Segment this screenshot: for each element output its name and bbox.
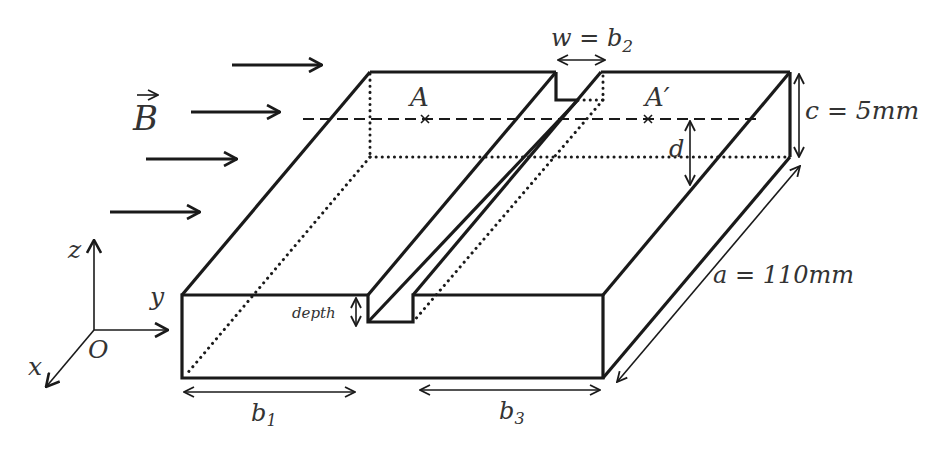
plate-groove-diagram: B A A′ xyxy=(0,0,935,450)
plate-visible-edges xyxy=(182,72,790,378)
groove-depth-label: depth xyxy=(292,304,336,322)
y-axis-label: y xyxy=(149,282,165,311)
z-axis-label: z xyxy=(67,235,82,264)
b1-label: b1 xyxy=(251,399,277,430)
field-label: B xyxy=(132,98,158,138)
x-axis-label: x xyxy=(28,352,42,381)
origin-label: O xyxy=(88,335,109,364)
groove-width-label: w = b2 xyxy=(551,24,633,56)
thickness-label: c = 5mm xyxy=(805,96,919,125)
coordinate-axes xyxy=(46,240,168,387)
b3-label: b3 xyxy=(499,397,525,428)
x-axis-arrow-icon xyxy=(46,330,94,387)
d-label: d xyxy=(669,135,684,163)
magnetic-field-arrows xyxy=(110,65,322,212)
length-label: a = 110mm xyxy=(713,261,854,289)
point-a-label: A xyxy=(408,82,429,112)
point-a-prime-label: A′ xyxy=(643,82,670,112)
